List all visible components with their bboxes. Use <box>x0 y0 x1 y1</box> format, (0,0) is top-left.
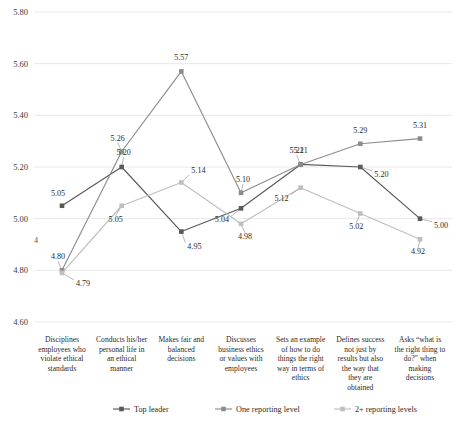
stray-mark: 4 <box>34 236 38 245</box>
data-point <box>358 165 363 170</box>
data-point <box>418 136 423 141</box>
data-label: 4.98 <box>238 232 252 241</box>
data-label: 5.14 <box>191 166 205 175</box>
series-lines-group <box>62 71 420 273</box>
data-point <box>119 165 124 170</box>
data-point <box>418 216 423 221</box>
data-point <box>119 203 124 208</box>
chart-legend[interactable]: Top leaderOne reporting level2+ reportin… <box>113 405 417 414</box>
data-label: 4.79 <box>76 279 90 288</box>
y-tick-4.80: 4.80 <box>13 265 28 275</box>
data-label: 5.26 <box>111 134 125 143</box>
data-label: 5.05 <box>109 215 123 224</box>
data-label: 5.10 <box>236 175 250 184</box>
data-point <box>239 206 244 211</box>
x-axis-label-3: Discussesbusiness ethicsor values withem… <box>218 335 263 373</box>
data-label: 5.00 <box>434 221 448 230</box>
data-point <box>298 162 303 167</box>
gridlines-group <box>34 12 452 322</box>
x-axis-label-6: Asks “what isthe right thing todo?” when… <box>395 335 446 382</box>
data-point <box>239 222 244 227</box>
y-tick-4.60: 4.60 <box>13 317 28 327</box>
data-point <box>418 237 423 242</box>
x-axis-label-0: Disciplinesemployees whoviolate ethicals… <box>38 335 86 373</box>
legend-marker-0 <box>119 407 124 412</box>
data-label: 5.02 <box>349 222 363 231</box>
data-label: 5.04 <box>215 215 229 224</box>
x-axis-label-2: Makes fair andbalanceddecisions <box>159 335 205 363</box>
data-point <box>239 191 244 196</box>
legend-label-0[interactable]: Top leader <box>134 405 169 414</box>
data-label-leader-lines <box>58 143 432 280</box>
y-tick-5.80: 5.80 <box>13 7 28 17</box>
data-label: 5.05 <box>51 189 65 198</box>
data-label: 4.80 <box>51 252 65 261</box>
data-point <box>179 180 184 185</box>
data-label: 5.21 <box>294 146 308 155</box>
x-axis-category-labels: Disciplinesemployees whoviolate ethicals… <box>38 335 445 392</box>
ethical-leadership-line-chart: 4.604.805.005.205.405.605.80 5.055.204.9… <box>0 0 458 422</box>
legend-label-2[interactable]: 2+ reporting levels <box>355 405 417 414</box>
x-axis-label-4: Sets an exampleof how to dothings the ri… <box>276 335 326 382</box>
data-point <box>298 185 303 190</box>
data-point <box>358 211 363 216</box>
data-point <box>60 271 65 276</box>
data-label: 4.92 <box>411 247 425 256</box>
data-label: 5.20 <box>374 170 388 179</box>
y-tick-5.20: 5.20 <box>13 162 28 172</box>
data-point <box>358 141 363 146</box>
data-point <box>60 203 65 208</box>
data-value-labels: 5.055.204.955.045.215.205.004.805.265.57… <box>51 53 448 287</box>
legend-label-1[interactable]: One reporting level <box>236 405 300 414</box>
data-label: 4.95 <box>187 242 201 251</box>
y-axis-tick-labels: 4.604.805.005.205.405.605.80 <box>13 7 28 327</box>
data-label: 5.57 <box>174 53 188 62</box>
data-point <box>179 229 184 234</box>
series-line-2 <box>62 183 420 273</box>
chart-canvas: 4.604.805.005.205.405.605.80 5.055.204.9… <box>0 0 458 422</box>
legend-marker-1 <box>221 407 226 412</box>
data-label: 5.12 <box>274 194 288 203</box>
y-tick-5.40: 5.40 <box>13 110 28 120</box>
data-label: 5.29 <box>353 126 367 135</box>
legend-marker-2 <box>340 407 345 412</box>
y-tick-5.00: 5.00 <box>13 214 28 224</box>
x-axis-label-1: Conducts his/herpersonal life inan ethic… <box>96 335 148 373</box>
data-point <box>179 69 184 74</box>
data-label: 5.20 <box>117 148 131 157</box>
data-label: 5.31 <box>413 121 427 130</box>
y-tick-5.60: 5.60 <box>13 59 28 69</box>
x-axis-label-5: Defines successnot just byresults but al… <box>336 335 384 392</box>
stray-axis-mark: 4 <box>34 236 38 245</box>
